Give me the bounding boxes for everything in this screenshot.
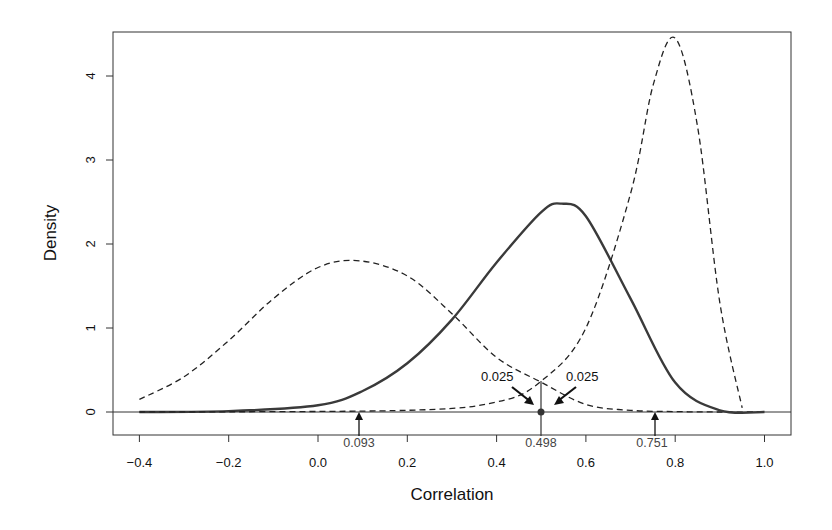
tail-left-label: 0.025 (481, 369, 514, 384)
observed-curve (139, 203, 764, 413)
y-tick-label: 4 (83, 72, 98, 79)
observed-label: 0.498 (525, 436, 556, 450)
x-tick-label: −0.2 (216, 455, 242, 470)
observed-point (538, 409, 545, 416)
y-tick-label: 1 (83, 324, 98, 331)
x-tick-label: 0.6 (577, 455, 595, 470)
upper-bound-arrowhead-icon (651, 412, 659, 420)
upper-bound-curve (139, 37, 742, 412)
y-axis-title: Density (41, 204, 60, 261)
density-chart: −0.4−0.20.00.20.40.60.81.0 01234 0.025 0… (0, 0, 832, 530)
x-tick-label: 0.2 (398, 455, 416, 470)
x-tick-label: −0.4 (127, 455, 153, 470)
lower-bound-label: 0.093 (343, 436, 374, 450)
y-axis: 01234 (83, 72, 113, 415)
y-tick-label: 3 (83, 156, 98, 163)
plot-frame (113, 32, 791, 435)
x-tick-label: 0.0 (309, 455, 327, 470)
x-axis-title: Correlation (410, 485, 493, 504)
x-tick-label: 0.4 (488, 455, 506, 470)
tail-right-label: 0.025 (566, 369, 599, 384)
upper-bound-label: 0.751 (636, 436, 667, 450)
lower-bound-arrowhead-icon (355, 412, 363, 420)
y-tick-label: 2 (83, 240, 98, 247)
y-tick-label: 0 (83, 408, 98, 415)
x-axis: −0.4−0.20.00.20.40.60.81.0 (127, 435, 774, 470)
curves (139, 37, 764, 413)
x-tick-label: 1.0 (755, 455, 773, 470)
lower-bound-curve (139, 260, 764, 412)
x-tick-label: 0.8 (666, 455, 684, 470)
